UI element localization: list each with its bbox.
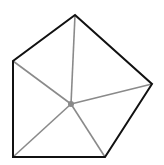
pentagon-diagram — [0, 0, 164, 165]
background — [0, 0, 164, 165]
center-point — [68, 101, 74, 107]
